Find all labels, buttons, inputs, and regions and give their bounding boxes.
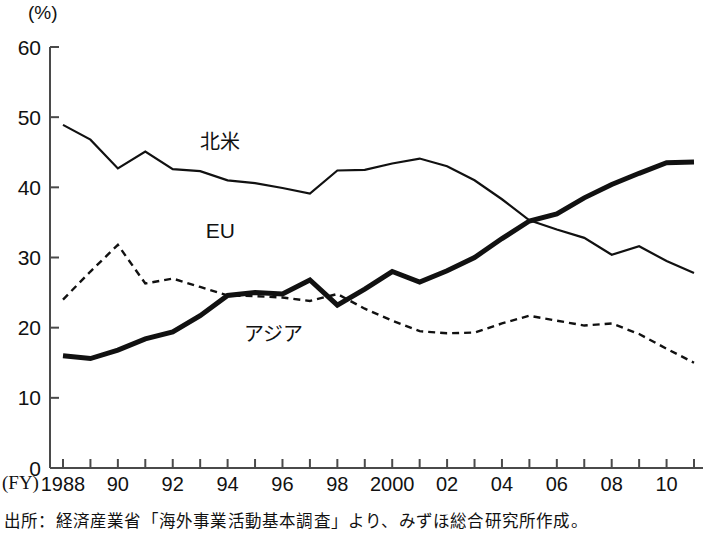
- series-line-北米: [63, 125, 694, 273]
- x-tick-label: 92: [162, 473, 184, 495]
- y-axis-tick-labels: 0102030405060: [18, 36, 41, 480]
- y-tick-label: 10: [18, 386, 41, 409]
- y-axis-ticks: [50, 47, 59, 468]
- line-chart-plot: 1988909294969820000204060810 01020304050…: [0, 0, 709, 500]
- series-line-EU: [63, 245, 694, 363]
- x-tick-label: 1988: [41, 473, 86, 495]
- y-tick-label: 50: [18, 106, 41, 129]
- y-tick-label: 20: [18, 316, 41, 339]
- y-tick-label: 30: [18, 246, 41, 269]
- chart-figure: (%) 1988909294969820000204060810 0102030…: [0, 0, 709, 535]
- x-tick-label: 90: [107, 473, 129, 495]
- x-axis-ticks: [63, 459, 694, 468]
- x-tick-label: 96: [271, 473, 293, 495]
- y-tick-label: 40: [18, 176, 41, 199]
- series-label-北米: 北米: [200, 131, 240, 153]
- x-tick-label: 04: [491, 473, 513, 495]
- x-tick-label: 98: [326, 473, 348, 495]
- series-annotations: 北米EUアジア: [200, 131, 303, 345]
- x-tick-label: 06: [546, 473, 568, 495]
- x-tick-label: 02: [436, 473, 458, 495]
- x-tick-label: 94: [216, 473, 238, 495]
- source-note: 出所：経済産業省「海外事業活動基本調査」より、みずほ総合研究所作成。: [4, 508, 588, 532]
- fy-axis-label: (FY): [2, 472, 39, 494]
- x-tick-label: 08: [601, 473, 623, 495]
- series-label-EU: EU: [206, 219, 235, 242]
- x-axis-tick-labels: 1988909294969820000204060810: [41, 473, 678, 495]
- y-tick-label: 60: [18, 36, 41, 59]
- series-line-アジア: [63, 162, 694, 358]
- series-lines: [63, 125, 694, 363]
- series-label-アジア: アジア: [244, 323, 303, 345]
- x-tick-label: 10: [655, 473, 677, 495]
- x-tick-label: 2000: [370, 473, 415, 495]
